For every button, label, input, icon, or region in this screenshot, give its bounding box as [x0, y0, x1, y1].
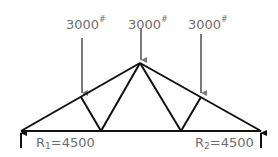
load-value: 3000 [188, 17, 221, 32]
load-value: 3000 [66, 17, 99, 32]
reaction-sub: 1 [45, 141, 51, 151]
truss-members [21, 63, 261, 131]
load-unit: # [99, 15, 106, 24]
reaction-sub: 2 [204, 141, 210, 151]
load-unit: # [161, 15, 168, 24]
reaction-label-right: R2=4500 [195, 136, 254, 149]
web-right-outer [181, 97, 201, 131]
web-right-inner [140, 63, 181, 131]
load-label-right: 3000# [188, 18, 228, 31]
reaction-value: =4500 [210, 135, 254, 150]
load-value: 3000 [128, 17, 161, 32]
load-arrows [82, 28, 201, 93]
truss-diagram: 3000# 3000# 3000# R1=4500 R2=4500 [0, 0, 278, 157]
web-left-outer [81, 97, 101, 131]
reaction-name: R [36, 135, 45, 150]
left-top-chord [21, 63, 140, 131]
load-unit: # [221, 15, 228, 24]
reaction-value: =4500 [51, 135, 95, 150]
load-label-left: 3000# [66, 18, 106, 31]
reaction-name: R [195, 135, 204, 150]
load-label-center: 3000# [128, 18, 168, 31]
reaction-label-left: R1=4500 [36, 136, 95, 149]
